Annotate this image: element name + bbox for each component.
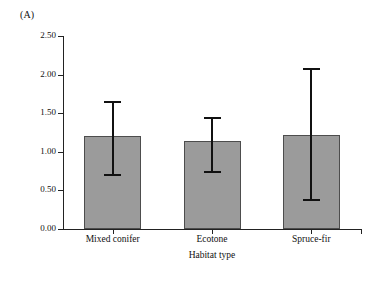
error-bar-cap-lower [204,171,221,173]
y-tick-mark [58,152,63,153]
y-axis-line [63,36,64,230]
error-bar-cap-lower [104,174,121,176]
y-tick-label: 0.50 [16,184,56,194]
x-tick-label: Mixed conifer [63,234,162,244]
error-bar-cap-upper [204,117,221,119]
y-tick-label: 1.00 [16,146,56,156]
y-tick-mark [58,229,63,230]
panel-label: (A) [20,9,34,20]
error-bar-line [310,69,312,199]
y-tick-label: 1.50 [16,107,56,117]
x-tick-mark-end [361,229,362,234]
x-tick-label: Ecotone [162,234,261,244]
figure-panel-a: (A) Annual population growth rate 0.000.… [0,0,373,282]
y-tick-mark [58,113,63,114]
error-bar-line [112,102,114,175]
error-bar-cap-lower [303,199,320,201]
y-tick-mark [58,36,63,37]
error-bar-cap-upper [104,101,121,103]
y-tick-label: 2.50 [16,30,56,40]
error-bar-cap-upper [303,68,320,70]
error-bar-line [211,118,213,172]
y-tick-label: 0.00 [16,223,56,233]
x-tick-label: Spruce-fir [262,234,361,244]
y-tick-mark [58,75,63,76]
y-tick-label: 2.00 [16,69,56,79]
x-axis-label: Habitat type [63,250,361,260]
y-tick-mark [58,190,63,191]
